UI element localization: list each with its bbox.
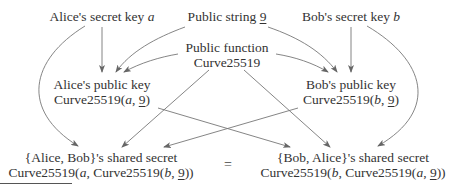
alice-shared-line1: {Alice, Bob}'s shared secret — [8, 150, 193, 165]
public-string-label: Public string — [188, 9, 260, 24]
alice-shared-line2: Curve25519(a, Curve25519(b, 9)) — [8, 165, 193, 180]
alice-secret-label: Alice's secret key — [50, 9, 148, 24]
edge-bob-public-to-alice-shared — [164, 108, 298, 147]
edge-public-string-to-bob-public — [268, 27, 337, 72]
node-alice-shared-secret: {Alice, Bob}'s shared secret Curve25519(… — [8, 150, 193, 180]
bob-public-value: 9 — [388, 92, 395, 107]
alice-shared-close: )) — [185, 165, 194, 180]
bob-shared-close: )) — [437, 165, 446, 180]
bob-shared-fn-outer: Curve25519( — [260, 165, 331, 180]
node-bob-secret-key: Bob's secret key b — [302, 9, 400, 24]
node-bob-public-key: Bob's public key Curve25519(b, 9) — [303, 77, 399, 107]
alice-public-line1: Alice's public key — [54, 77, 151, 92]
alice-shared-fn-outer: Curve25519( — [8, 165, 79, 180]
bob-shared-var-outer: b — [332, 165, 339, 180]
bob-secret-label: Bob's secret key — [302, 9, 393, 24]
bob-shared-line1: {Bob, Alice}'s shared secret — [260, 150, 445, 165]
public-string-value: 9 — [260, 9, 267, 24]
alice-shared-fn-inner: , Curve25519( — [86, 165, 164, 180]
alice-secret-var: a — [148, 9, 155, 24]
alice-public-fn: Curve25519( — [54, 92, 125, 107]
node-public-function: Public function Curve25519 — [186, 40, 269, 70]
node-bob-shared-secret: {Bob, Alice}'s shared secret Curve25519(… — [260, 150, 445, 180]
bob-public-line2: Curve25519(b, 9) — [303, 92, 399, 107]
edge-public-string-to-alice-public — [116, 27, 185, 72]
bob-shared-var-inner: a — [416, 165, 423, 180]
public-function-line1: Public function — [186, 40, 269, 55]
public-function-line2: Curve25519 — [186, 55, 269, 70]
alice-shared-var-outer: a — [80, 165, 87, 180]
bob-secret-var: b — [393, 9, 400, 24]
bob-shared-line2: Curve25519(b, Curve25519(a, 9)) — [260, 165, 445, 180]
bob-public-var: b — [374, 92, 381, 107]
alice-shared-var-inner: b — [164, 165, 171, 180]
node-public-string: Public string 9 — [188, 9, 267, 24]
edge-alice-public-to-bob-shared — [158, 108, 290, 147]
bob-shared-sep: , — [423, 165, 430, 180]
bob-public-fn: Curve25519( — [303, 92, 374, 107]
bob-public-line1: Bob's public key — [303, 77, 399, 92]
node-alice-public-key: Alice's public key Curve25519(a, 9) — [54, 77, 151, 107]
edge-public-function-to-alice-public — [124, 54, 178, 72]
edge-public-function-to-bob-public — [276, 54, 328, 72]
equals-sign: = — [224, 157, 232, 173]
bob-public-sep: , — [381, 92, 388, 107]
bob-shared-fn-inner: , Curve25519( — [338, 165, 416, 180]
alice-public-value: 9 — [139, 92, 146, 107]
alice-public-line2: Curve25519(a, 9) — [54, 92, 151, 107]
bob-public-close: ) — [395, 92, 400, 107]
node-alice-secret-key: Alice's secret key a — [50, 9, 155, 24]
alice-public-close: ) — [146, 92, 151, 107]
alice-shared-sep: , — [171, 165, 178, 180]
footnote-rule — [0, 183, 72, 184]
